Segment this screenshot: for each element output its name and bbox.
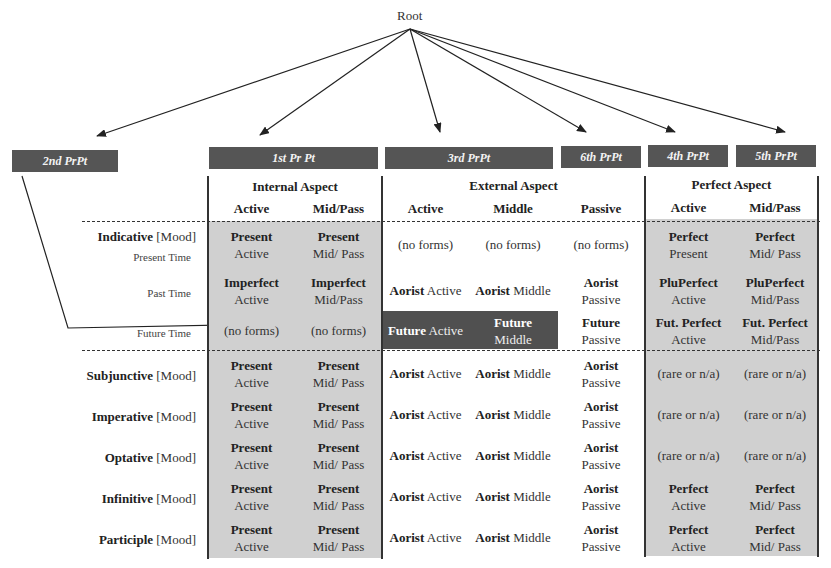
time-label-future: Future Time (137, 327, 191, 339)
cell-tense: Present (318, 358, 360, 373)
cell-tense: Aorist (584, 358, 619, 373)
principal-part-5th: 5th PrPt (736, 145, 816, 167)
cell-voice: Present (669, 246, 707, 261)
grid-cell: PresentMid/ Pass (295, 228, 382, 262)
cell-tense: Aorist (475, 489, 510, 504)
aspect-internal: Internal Aspect (208, 179, 382, 195)
cell-voice: Active (428, 323, 463, 338)
cell-tense: Perfect (755, 229, 795, 244)
grid-cell: FuturePassive (557, 314, 645, 348)
grid-cell: (no forms) (208, 322, 295, 339)
cell-voice: Active (234, 539, 269, 554)
cell-tense: Present (231, 522, 273, 537)
row-label-optative: Optative [Mood] (105, 450, 196, 466)
row-label-participle: Participle [Mood] (99, 532, 196, 548)
grid-cell: (no forms) (295, 322, 382, 339)
grid-cell: PerfectMid/ Pass (732, 480, 818, 514)
cell-tense: Aorist (584, 275, 619, 290)
cell-voice: Mid/ Pass (749, 246, 801, 261)
grid-cell: PresentActive (208, 228, 295, 262)
grid-cell: (no forms) (469, 236, 557, 253)
cell-voice: Passive (582, 457, 621, 472)
grid-cell: Fut. PerfectActive (645, 314, 732, 348)
grid-cell: (rare or n/a) (645, 447, 732, 464)
cell-voice: Active (427, 366, 462, 381)
grid-cell: AoristPassive (557, 398, 645, 432)
cell-tense: Present (318, 399, 360, 414)
grid-cell: PerfectPresent (645, 228, 732, 262)
cell-tense: Aorist (390, 407, 425, 422)
cell-voice: Middle (513, 448, 551, 463)
voice-external-middle: Middle (469, 201, 557, 217)
cell-tense: Perfect (669, 522, 709, 537)
cell-voice: Middle (513, 283, 551, 298)
dashed-separator-mid (82, 350, 820, 351)
cell-tense: Perfect (669, 481, 709, 496)
grid-cell: PerfectActive (645, 480, 732, 514)
voice-external-active: Active (382, 201, 469, 217)
cell-voice: (rare or n/a) (744, 407, 806, 422)
grid-cell: PresentActive (208, 439, 295, 473)
cell-tense: Present (318, 481, 360, 496)
cell-tense: Present (231, 481, 273, 496)
cell-tense: Aorist (390, 448, 425, 463)
grid-cell: AoristPassive (557, 357, 645, 391)
grid-cell: (rare or n/a) (732, 406, 818, 423)
cell-voice: Mid/ Pass (313, 498, 365, 513)
grid-cell: Aorist Active (382, 529, 469, 546)
time-label-past: Past Time (147, 287, 191, 299)
cell-voice: Active (427, 489, 462, 504)
cell-voice: Middle (494, 332, 532, 347)
cell-voice: Middle (513, 366, 551, 381)
grid-cell: Aorist Middle (469, 529, 557, 546)
grid-cell: PresentMid/ Pass (295, 439, 382, 473)
grid-cell: PluPerfectMid/Pass (732, 274, 818, 308)
cell-voice: Active (427, 407, 462, 422)
cell-tense: Imperfect (311, 275, 366, 290)
grid-cell: PerfectMid/ Pass (732, 228, 818, 262)
grid-cell: AoristPassive (557, 439, 645, 473)
cell-voice: Mid/Pass (751, 292, 799, 307)
grid-cell: PresentMid/ Pass (295, 398, 382, 432)
cell-voice: Mid/ Pass (313, 246, 365, 261)
row-label-infinitive: Infinitive [Mood] (102, 491, 196, 507)
cell-voice: Passive (582, 332, 621, 347)
cell-voice: Middle (513, 530, 551, 545)
cell-voice: Active (671, 498, 706, 513)
cell-voice: Active (671, 332, 706, 347)
grid-cell: (rare or n/a) (645, 406, 732, 423)
cell-tense: Aorist (475, 366, 510, 381)
cell-voice: Passive (582, 416, 621, 431)
grid-cell: PresentActive (208, 357, 295, 391)
cell-voice: (no forms) (224, 323, 279, 338)
cell-tense: Aorist (475, 407, 510, 422)
grid-cell: Aorist Middle (469, 282, 557, 299)
grid-cell: Aorist Active (382, 488, 469, 505)
cell-voice: Passive (582, 539, 621, 554)
row-label-subjunctive: Subjunctive [Mood] (87, 368, 196, 384)
cell-tense: Present (231, 229, 273, 244)
cell-voice: Active (234, 498, 269, 513)
cell-voice: Active (427, 283, 462, 298)
cell-tense: Aorist (390, 366, 425, 381)
root-label: Root (397, 8, 422, 24)
cell-tense: Aorist (584, 440, 619, 455)
cell-voice: Mid/Pass (751, 332, 799, 347)
cell-tense: PluPerfect (659, 275, 717, 290)
aspect-perfect: Perfect Aspect (645, 177, 818, 193)
cell-tense: Aorist (475, 448, 510, 463)
cell-voice: Middle (513, 489, 551, 504)
cell-tense: Aorist (584, 522, 619, 537)
cell-tense: Imperfect (224, 275, 279, 290)
grid-cell: Aorist Middle (469, 365, 557, 382)
grid-cell: AoristPassive (557, 274, 645, 308)
cell-tense: Future (494, 315, 532, 330)
grid-cell: Aorist Active (382, 447, 469, 464)
cell-voice: Active (234, 375, 269, 390)
cell-tense: Aorist (584, 481, 619, 496)
voice-perfect-midpass: Mid/Pass (732, 200, 818, 216)
cell-tense: Aorist (390, 283, 425, 298)
cell-tense: Perfect (755, 522, 795, 537)
grid-cell: Fut. PerfectMid/Pass (732, 314, 818, 348)
grid-cell: FutureMiddle (469, 314, 557, 348)
